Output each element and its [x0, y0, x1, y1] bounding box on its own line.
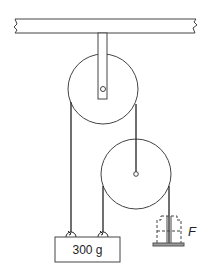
hook-right [98, 231, 108, 237]
fixed-pulley-axle [101, 87, 106, 92]
ceiling-beam [14, 19, 197, 33]
mass-label: 300 g [72, 243, 102, 257]
hanger-base-plate [153, 243, 184, 246]
force-label: F [188, 224, 197, 239]
fixed-pulley [68, 33, 138, 124]
pulley-diagram: 300 g F [0, 0, 221, 279]
movable-pulley [101, 139, 171, 209]
mass-block: 300 g [55, 237, 120, 262]
hook-left [66, 231, 76, 237]
movable-pulley-axle [134, 172, 139, 177]
